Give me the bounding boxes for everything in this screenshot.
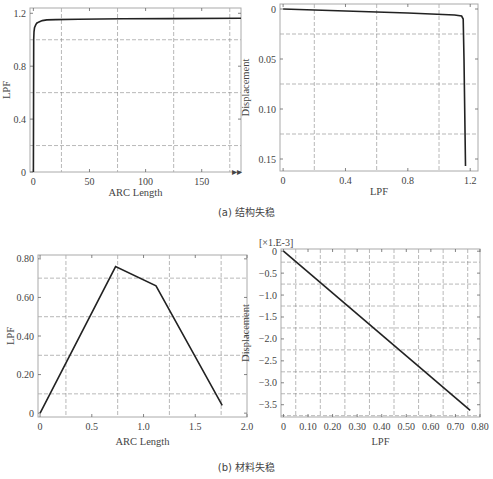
y-multiplier-label: [×1.E-3] — [259, 237, 293, 248]
chart-b-right: 00.100.200.300.400.500.600.700.800−0.5−1… — [240, 237, 489, 447]
x-axis-label: LPF — [370, 186, 388, 197]
x-tick-label: 0 — [281, 175, 286, 186]
chart-b-left: 00.51.01.52.000.200.400.600.80ARC Length… — [5, 253, 253, 447]
x-tick-label: 0.50 — [398, 421, 416, 432]
y-tick-label: −3.5 — [259, 399, 277, 410]
x-tick-label: 0 — [281, 421, 286, 432]
caption-b: (b) 材料失稳 — [0, 459, 493, 474]
x-tick-label: 150 — [194, 176, 209, 187]
x-tick-label: 1.2 — [464, 175, 477, 186]
y-tick-label: 0.05 — [259, 54, 277, 65]
y-tick-label: 0.4 — [14, 114, 27, 125]
x-tick-label: 50 — [84, 176, 94, 187]
y-axis-label: Displacement — [240, 304, 251, 362]
chart-a-right: 00.40.81.200.050.100.15LPFDisplacement — [240, 4, 478, 198]
y-tick-label: −2.0 — [259, 333, 277, 344]
x-tick-label: 100 — [138, 176, 153, 187]
x-tick-label: 0.5 — [86, 421, 99, 432]
y-axis-label: LPF — [1, 81, 12, 99]
y-tick-label: −1.0 — [259, 290, 277, 301]
y-tick-label: −3.0 — [259, 377, 277, 388]
data-series-line — [283, 9, 465, 166]
x-tick-label: 0.60 — [422, 421, 440, 432]
y-tick-label: −1.5 — [259, 311, 277, 322]
y-tick-label: 1.2 — [14, 8, 27, 19]
data-series-line — [284, 251, 471, 410]
y-tick-label: 0.10 — [259, 104, 277, 115]
continuation-arrow-icon: ▸▸ — [232, 166, 242, 177]
data-series-line — [33, 18, 241, 172]
y-tick-label: 0 — [21, 167, 26, 178]
plot-frame — [280, 4, 478, 171]
y-axis-label: Displacement — [240, 59, 251, 117]
x-tick-label: 0.20 — [324, 421, 342, 432]
y-tick-label: 0 — [29, 408, 34, 419]
y-tick-label: −0.5 — [259, 268, 277, 279]
y-tick-label: 0.60 — [17, 292, 35, 303]
x-tick-label: 0.40 — [373, 421, 391, 432]
x-tick-label: 0.4 — [339, 175, 352, 186]
x-tick-label: 0 — [31, 176, 36, 187]
data-series-line — [40, 267, 222, 414]
x-axis-label: LPF — [371, 436, 389, 447]
caption-a: (a) 结构失稳 — [0, 204, 493, 219]
y-tick-label: 0 — [271, 4, 276, 15]
y-tick-label: 0.40 — [17, 331, 35, 342]
chart-a-left: 05010015000.40.81.2ARC LengthLPF▸▸ — [1, 8, 242, 198]
y-tick-label: 0.80 — [17, 253, 35, 264]
y-tick-label: 0.20 — [17, 369, 35, 380]
y-tick-label: 0.8 — [14, 61, 27, 72]
y-tick-label: 0.15 — [259, 154, 277, 165]
x-tick-label: 0.30 — [348, 421, 366, 432]
x-tick-label: 1.0 — [137, 421, 150, 432]
x-tick-label: 0 — [38, 421, 43, 432]
x-tick-label: 1.5 — [189, 421, 202, 432]
x-axis-label: ARC Length — [109, 187, 164, 198]
y-tick-label: −2.5 — [259, 355, 277, 366]
x-tick-label: 0.80 — [471, 421, 489, 432]
figure-canvas: 05010015000.40.81.2ARC LengthLPF▸▸00.40.… — [0, 0, 493, 479]
x-tick-label: 0.10 — [299, 421, 317, 432]
x-tick-label: 0.70 — [447, 421, 465, 432]
y-axis-label: LPF — [5, 327, 16, 345]
x-tick-label: 0.8 — [402, 175, 415, 186]
x-axis-label: ARC Length — [116, 436, 171, 447]
x-tick-label: 2.0 — [241, 421, 254, 432]
